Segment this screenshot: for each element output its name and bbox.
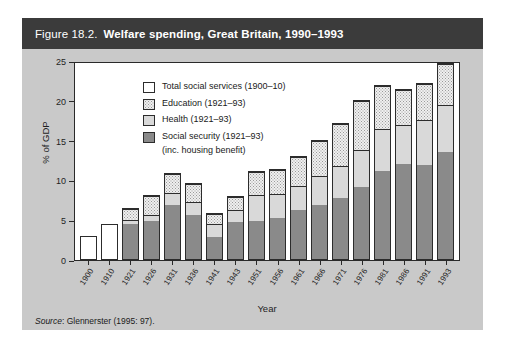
bar-segment-health [375,129,389,171]
x-tick-1943: 1943 [225,261,246,307]
x-tick-1961: 1961 [288,261,309,307]
bar-segment-total-social-services [102,225,116,259]
y-tick-5: 5 [61,216,74,226]
bar-segment-health [396,125,410,164]
bar-segment-health [291,186,305,210]
bar-segment-social-security [123,224,137,259]
bar-stack [164,173,180,260]
y-tick-10: 10 [56,176,74,186]
bar-stack [185,183,201,260]
x-tick-label: 1910 [99,267,116,287]
legend-swatch-social [143,132,155,143]
bar-segment-education [207,214,221,224]
legend-label-health: Health (1921–93) [162,114,232,126]
x-tick-label: 1991 [415,267,432,287]
legend-swatch-health [143,115,155,126]
y-tick-15: 15 [56,137,74,147]
x-tick-1971: 1971 [330,261,351,307]
y-tick-label: 5 [61,216,66,226]
x-tick-label: 1961 [289,267,306,287]
x-tick-1941: 1941 [204,261,225,307]
legend-swatch-education [143,99,155,110]
bar-segment-health [228,210,242,222]
plot-area: Total social services (1900–10)Education… [74,62,460,261]
bar-segment-health [417,120,431,165]
x-tick-1926: 1926 [140,261,161,307]
x-tick-label: 1976 [352,267,369,287]
legend-item-social: Social security (1921–93) [143,131,353,143]
bar-group-1991 [414,63,435,260]
x-tick-mark [362,261,363,265]
bar-segment-social-security [375,171,389,259]
source-label: Source [35,316,62,326]
y-tick-label: 15 [56,137,66,147]
bar-stack [374,85,390,260]
bar-stack [395,89,411,260]
x-tick-mark [278,261,279,265]
x-tick-1981: 1981 [373,261,394,307]
bar-segment-social-security [438,152,452,259]
bar-segment-social-security [144,221,158,259]
bar-stack [248,171,264,260]
y-tick-20: 20 [56,97,74,107]
bar-segment-education [228,197,242,210]
bar-stack [101,224,117,260]
legend-label-total: Total social services (1900–10) [162,81,286,93]
bar-segment-education [375,86,389,129]
x-tick-mark [256,261,257,265]
bar-group-1900 [78,63,99,260]
legend-label-social: Social security (1921–93) [162,131,264,143]
bar-segment-social-security [207,237,221,259]
x-tick-mark [193,261,194,265]
source-text: : Glennerster (1995: 97). [62,316,155,326]
bar-segment-health [249,195,263,221]
x-tick-1966: 1966 [309,261,330,307]
bar-stack [206,213,222,260]
x-tick-1976: 1976 [351,261,372,307]
x-tick-mark [383,261,384,265]
x-tick-1986: 1986 [394,261,415,307]
x-tick-label: 1941 [204,267,221,287]
source-note: Source: Glennerster (1995: 97). [35,316,155,326]
bar-stack [80,236,96,260]
x-tick-1993: 1993 [436,261,457,307]
x-tick-mark [172,261,173,265]
bar-segment-social-security [291,210,305,259]
bar-segment-health [312,176,326,205]
legend-item-total: Total social services (1900–10) [143,81,353,93]
bar-segment-education [123,209,137,219]
y-tick-label: 10 [56,176,66,186]
bar-segment-social-security [396,164,410,259]
bar-segment-education [438,64,452,104]
bar-segment-education [417,84,431,120]
x-tick-label: 1900 [78,267,95,287]
y-tick-0: 0 [61,256,74,266]
x-tick-label: 1921 [120,267,137,287]
bar-segment-education [354,101,368,150]
bar-segment-total-social-services [81,237,95,259]
bar-group-1921 [120,63,141,260]
y-tick-25: 25 [56,57,74,67]
y-tick-label: 0 [61,256,66,266]
bar-segment-health [270,194,284,218]
x-tick-mark [320,261,321,265]
bar-segment-social-security [417,165,431,259]
bar-stack [122,208,138,260]
bar-segment-health [438,105,452,152]
x-tick-1956: 1956 [267,261,288,307]
bar-segment-social-security [270,218,284,259]
x-tick-1991: 1991 [415,261,436,307]
bar-stack [227,196,243,260]
bar-segment-education [396,90,410,125]
bar-stack [353,100,369,260]
x-tick-mark [425,261,426,265]
bar-group-1986 [393,63,414,260]
x-tick-1900: 1900 [77,261,98,307]
bar-segment-education [249,172,263,195]
bar-segment-education [144,196,158,215]
bar-segment-education [291,157,305,186]
x-tick-mark [299,261,300,265]
bar-segment-social-security [333,198,347,259]
y-tick-label: 25 [56,57,66,67]
bar-segment-social-security [354,187,368,259]
